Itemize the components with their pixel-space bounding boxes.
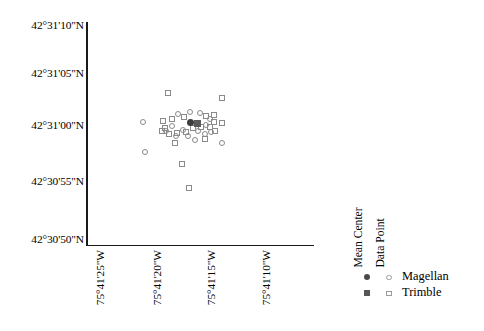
- data-point-marker: [211, 119, 218, 126]
- data-point-marker: [159, 128, 166, 135]
- data-point-marker: [181, 114, 188, 121]
- data-point-marker: [179, 161, 186, 168]
- legend-row-label-trimble: Trimble: [402, 286, 441, 298]
- y-axis-tick-label: 42°31'00"N: [2, 120, 84, 131]
- data-point-marker: [165, 90, 172, 97]
- legend-column-header-data-point: Data Point: [375, 219, 387, 268]
- data-point-marker: [212, 128, 219, 135]
- data-point-marker: [194, 120, 201, 127]
- x-axis-tick-label: 75°41'15"W: [206, 250, 217, 305]
- data-point-marker: [183, 129, 190, 136]
- data-point-marker: [172, 140, 179, 147]
- y-axis-line: [86, 22, 88, 246]
- legend: Mean Center Data Point Magellan Trimble: [352, 168, 482, 308]
- data-point-marker: [160, 118, 167, 125]
- y-axis-tick-label: 42°31'05"N: [2, 68, 84, 79]
- data-point-marker: [187, 109, 193, 115]
- data-point-marker: [186, 185, 193, 192]
- data-point-marker: [203, 113, 210, 120]
- data-point-marker: [219, 95, 226, 102]
- legend-open-square-icon: [386, 291, 392, 297]
- y-axis-tick-label: 42°31'10"N: [2, 20, 84, 31]
- x-axis-tick-label: 75°41'25"W: [95, 250, 106, 305]
- data-point-marker: [169, 123, 175, 129]
- data-point-marker: [174, 130, 181, 137]
- data-point-marker: [219, 120, 226, 127]
- legend-open-circle-icon: [386, 275, 392, 281]
- data-point-marker: [169, 116, 176, 123]
- legend-column-header-mean-center: Mean Center: [353, 208, 365, 268]
- legend-filled-circle-icon: [364, 274, 370, 280]
- x-axis-tick-label: 75°41'20"W: [152, 250, 163, 305]
- y-axis-tick-label: 42°30'55"N: [2, 176, 84, 187]
- x-axis-line: [86, 245, 314, 247]
- data-point-marker: [202, 136, 209, 143]
- data-point-marker: [140, 119, 146, 125]
- scatter-plot-figure: 42°31'10"N42°31'05"N42°31'00"N42°30'55"N…: [0, 0, 484, 331]
- x-axis-tick-label: 75°41'10"W: [261, 250, 272, 305]
- data-point-marker: [187, 119, 194, 126]
- legend-filled-square-icon: [364, 290, 370, 296]
- y-axis-tick-labels: 42°31'10"N42°31'05"N42°31'00"N42°30'55"N…: [0, 0, 84, 331]
- y-axis-tick-label: 42°30'50"N: [2, 234, 84, 245]
- data-point-marker: [219, 140, 225, 146]
- data-point-marker: [166, 131, 173, 138]
- data-point-marker: [192, 137, 198, 143]
- legend-row-label-magellan: Magellan: [402, 270, 449, 282]
- data-point-marker: [142, 149, 148, 155]
- data-point-marker: [211, 112, 218, 119]
